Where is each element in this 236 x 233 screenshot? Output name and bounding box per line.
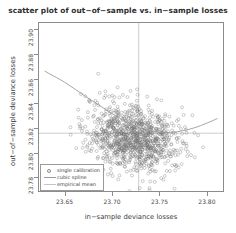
x-tick-label: 23.80 [198,198,215,205]
scatter-point [89,101,92,104]
scatter-point [131,174,134,177]
scatter-point [182,113,185,116]
scatter-point [152,115,155,118]
scatter-point [176,140,179,143]
y-tick-label: 23.84 [27,103,34,120]
scatter-point [128,104,131,107]
legend-box: single calibration cubic spline empirica… [40,164,104,191]
scatter-point [88,149,91,152]
scatter-point [146,95,149,98]
scatter-point [191,114,194,117]
scatter-point [190,154,193,157]
scatter-point [153,180,156,183]
scatter-point [101,124,104,127]
y-axis-label: out−of−sample deviance losses [9,26,17,196]
scatter-point [118,96,121,99]
cubic-spline-line-icon [43,174,57,181]
scatter-point [173,187,176,190]
scatter-point [86,146,89,149]
scatter-point [164,115,167,118]
scatter-point [106,173,109,176]
scatter-point [202,146,205,149]
scatter-point [102,144,105,147]
scatter-plot-figure: scatter plot of out−of−sample vs. in−sam… [0,0,236,233]
legend-label: empirical mean [57,181,96,188]
scatter-point [120,111,123,114]
scatter-point [136,88,139,91]
scatter-point [116,157,119,160]
scatter-point [149,180,152,183]
scatter-point [92,115,95,118]
scatter-point [132,168,135,171]
scatter-point [177,124,180,127]
scatter-point [117,178,120,181]
scatter-point [108,95,111,98]
legend-item: single calibration [43,167,101,174]
scatter-point [108,108,111,111]
scatter-point [149,116,152,119]
scatter-point [179,151,182,154]
scatter-point [140,110,143,113]
scatter-point [143,167,146,170]
chart-title: scatter plot of out−of−sample vs. in−sam… [0,6,236,15]
scatter-point [171,129,174,132]
scatter-point [84,125,87,128]
scatter-point [154,121,157,124]
scatter-point [135,166,138,169]
single-calibration-marker-icon [43,167,57,174]
scatter-point [147,104,150,107]
scatter-point [159,140,162,143]
scatter-point [111,94,114,97]
scatter-point [129,169,132,172]
x-tick-label: 23.75 [151,198,168,205]
scatter-point [163,156,166,159]
scatter-point [118,174,121,177]
x-tick-label: 23.70 [103,198,120,205]
scatter-point [164,155,167,158]
scatter-point [161,128,164,131]
scatter-point [186,150,189,153]
scatter-point [104,90,107,93]
scatter-point [176,149,179,152]
scatter-point [115,126,118,129]
scatter-point [174,169,177,172]
scatter-point [94,109,97,112]
legend-item: cubic spline [43,174,101,181]
scatter-point [108,106,111,109]
scatter-point [123,102,126,105]
scatter-point [170,134,173,137]
scatter-point [193,156,196,159]
empirical-mean-line-icon [43,181,57,188]
scatter-point [163,174,166,177]
scatter-point [102,115,105,118]
scatter-point [91,147,94,150]
scatter-point [135,116,138,119]
scatter-point [121,93,124,96]
scatter-point [181,132,184,135]
scatter-point [86,111,89,114]
scatter-point [181,106,184,109]
scatter-point [86,116,89,119]
scatter-point [97,143,100,146]
scatter-point [108,137,111,140]
scatter-point [168,115,171,118]
scatter-point [84,150,87,153]
scatter-point [97,138,100,141]
scatter-point [180,147,183,150]
scatter-point [157,122,160,125]
scatter-point [126,96,129,99]
scatter-point [171,164,174,167]
scatter-point [75,147,78,150]
scatter-point [135,99,138,102]
scatter-point [98,91,101,94]
scatter-point [179,128,182,131]
scatter-point [165,170,168,173]
scatter-point [160,99,163,102]
scatter-point [110,172,113,175]
scatter-point [146,119,149,122]
scatter-point [148,187,151,190]
scatter-point [129,89,132,92]
x-axis-label: in−sample deviance losses [38,213,224,221]
scatter-point [185,131,188,134]
scatter-point [180,163,183,166]
